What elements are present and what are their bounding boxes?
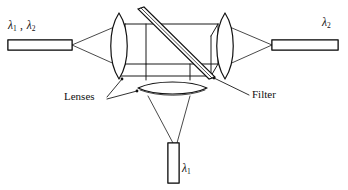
output-fiber-right: [272, 40, 338, 50]
output-fiber-bottom: [168, 143, 179, 183]
label-input-lambda2-subscript: 2: [32, 24, 36, 33]
label-input-lambda1-subscript: 1: [13, 24, 17, 33]
label-input-fiber: λ1 , λ2: [8, 20, 36, 32]
label-output-bottom-fiber: λ1: [182, 163, 191, 175]
focusing-lens-bottom: [138, 82, 207, 95]
input-fiber: [8, 40, 72, 50]
filter-leader-line: [213, 77, 249, 95]
output-beam-rays-bottom: [148, 96, 190, 143]
label-input-separator: ,: [17, 19, 27, 31]
optical-diagram-figure: λ1 , λ2 λ2 λ1 Lenses Filter: [0, 0, 348, 190]
lenses-leader-lines: [107, 78, 138, 99]
collimating-lens-right: [217, 13, 234, 79]
label-filter: Filter: [252, 89, 276, 100]
label-output-bottom-lambda-subscript: 1: [187, 167, 191, 176]
label-lenses: Lenses: [64, 91, 95, 102]
label-output-right-fiber: λ2: [322, 17, 331, 29]
interference-filter: [138, 7, 215, 79]
collimating-lens-left: [111, 13, 128, 79]
diagram-canvas: [0, 0, 348, 190]
label-output-right-lambda-subscript: 2: [327, 21, 331, 30]
